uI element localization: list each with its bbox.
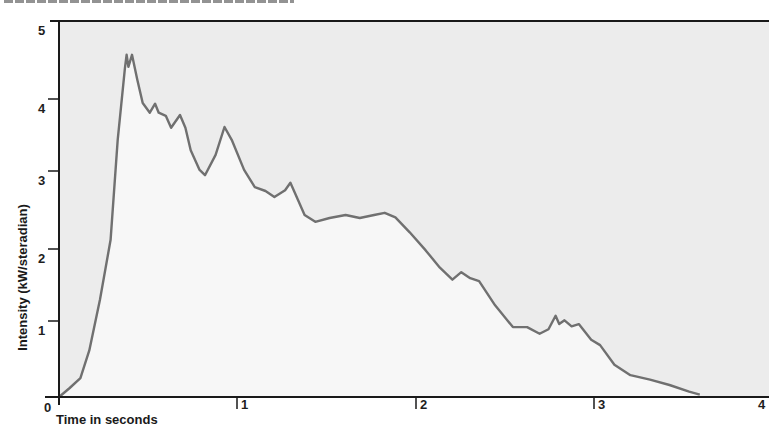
y-tick-label-3: 3: [38, 174, 45, 187]
y-axis-title: Intensity (kW/steradian): [15, 198, 30, 358]
x-tick-label-1: 1: [241, 398, 248, 411]
x-tick-label-4: 4: [758, 398, 765, 411]
x-tick-label-2: 2: [420, 398, 427, 411]
x-tick-label-0: 0: [44, 401, 51, 414]
x-axis-title: Time in seconds: [56, 412, 158, 427]
y-tick-label-4: 4: [38, 102, 45, 115]
x-tick-label-3: 3: [598, 398, 605, 411]
y-tick-label-5: 5: [38, 24, 45, 37]
y-tick-label-1: 1: [38, 324, 45, 337]
y-tick-label-2: 2: [38, 252, 45, 265]
